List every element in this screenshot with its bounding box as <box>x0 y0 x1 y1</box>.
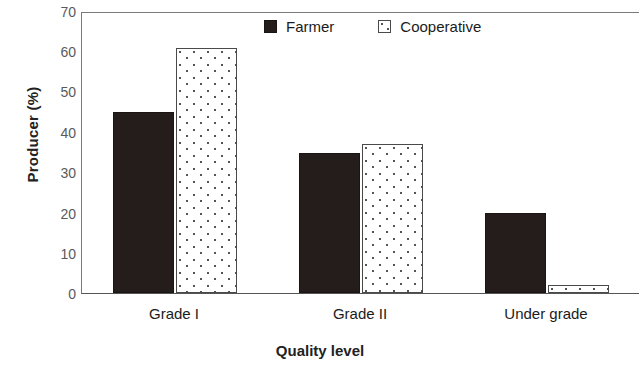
x-axis-category-label: Grade I <box>149 305 199 322</box>
y-tick-label: 40 <box>34 126 76 140</box>
bar-cooperative-3 <box>548 285 609 293</box>
bar-farmer-2 <box>299 153 360 294</box>
x-axis-category-label: Grade II <box>333 305 387 322</box>
x-axis-category-labels: Grade IGrade IIUnder grade <box>81 305 639 327</box>
solid-dark-square-icon <box>264 20 277 33</box>
y-tick-label: 20 <box>34 207 76 221</box>
bar-farmer-1 <box>113 112 174 293</box>
bars-layer <box>82 13 639 293</box>
legend-label: Farmer <box>286 18 334 35</box>
legend-item-farmer[interactable]: Farmer <box>264 18 334 35</box>
y-tick-label: 0 <box>34 287 76 301</box>
y-tick-label: 30 <box>34 166 76 180</box>
y-tick-label: 50 <box>34 85 76 99</box>
chart-legend: Farmer Cooperative <box>264 18 481 35</box>
bar-chart: Producer (%) 70 60 50 40 30 20 10 0 Farm… <box>0 0 640 372</box>
x-axis-category-label: Under grade <box>504 305 587 322</box>
patterned-white-square-icon <box>378 20 391 33</box>
bar-cooperative-1 <box>176 48 237 293</box>
y-tick-label: 70 <box>34 5 76 19</box>
y-axis-tick-labels: 70 60 50 40 30 20 10 0 <box>34 0 76 372</box>
legend-item-cooperative[interactable]: Cooperative <box>378 18 481 35</box>
y-tick-label: 10 <box>34 247 76 261</box>
bar-cooperative-2 <box>362 144 423 293</box>
x-axis-title: Quality level <box>0 342 640 359</box>
bar-farmer-3 <box>485 213 546 293</box>
legend-label: Cooperative <box>400 18 481 35</box>
plot-area <box>81 12 639 294</box>
y-tick-label: 60 <box>34 45 76 59</box>
